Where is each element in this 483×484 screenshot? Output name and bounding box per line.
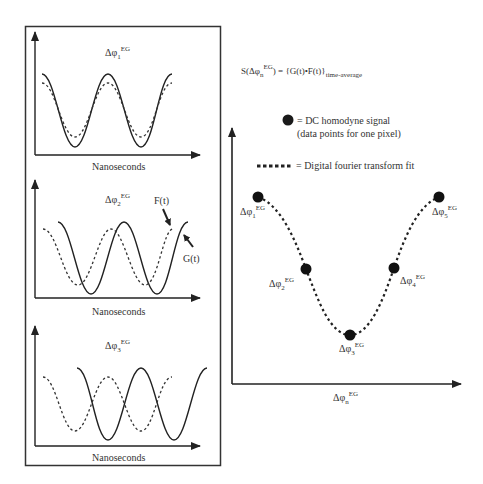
panel-3-dashed-curve (43, 377, 172, 431)
legend-dot-icon (283, 115, 294, 126)
panel-1-title: Δφ1EG (105, 45, 130, 61)
f-of-t-label: F(t) (154, 195, 169, 207)
panel-2-title: Δφ2EG (105, 192, 130, 208)
panel-1-xlabel: Nanoseconds (92, 161, 145, 172)
legend-dot-label: = DC homodyne signal (297, 115, 390, 126)
legend-dot-sublabel: (data points for one pixel) (297, 128, 401, 140)
panel-3-solid-curve (77, 368, 207, 440)
data-point-2 (301, 264, 312, 275)
g-of-t-label: G(t) (183, 253, 200, 265)
panel-1: Δφ1EG Nanoseconds (35, 32, 200, 172)
panel-1-solid-curve (42, 74, 172, 147)
formula: S(ΔφnEG) = {G(t)•F(t)}time-average (241, 63, 362, 79)
data-point-1-label: Δφ1EG (240, 204, 265, 220)
right-xlabel: ΔφnEG (333, 390, 358, 406)
panel-1-dashed-curve (42, 83, 172, 137)
diagram-canvas: Δφ1EG Nanoseconds Δφ2EG F(t) G(t) Nanose… (0, 0, 483, 484)
panel-2: Δφ2EG F(t) G(t) Nanoseconds (35, 180, 200, 317)
panel-3-xlabel: Nanoseconds (92, 452, 145, 463)
data-point-4-label: Δφ4EG (400, 273, 425, 289)
data-point-4 (389, 263, 400, 274)
g-of-t-arrow (184, 235, 193, 247)
f-of-t-arrow (163, 209, 170, 225)
fourier-fit-curve (258, 197, 439, 335)
data-point-3 (345, 330, 356, 341)
data-point-2-label: Δφ2EG (269, 276, 294, 292)
data-point-3-label: Δφ3EG (339, 341, 364, 357)
data-point-5 (434, 192, 445, 203)
data-point-1 (253, 192, 264, 203)
legend-dash-label: = Digital fourier transform fit (296, 160, 415, 171)
panel-2-xlabel: Nanoseconds (92, 306, 145, 317)
data-point-5-label: Δφ5EG (432, 204, 457, 220)
panel-3: Δφ3EG Nanoseconds (35, 326, 207, 463)
legend: = DC homodyne signal (data points for on… (257, 115, 415, 172)
panel-3-title: Δφ3EG (105, 338, 130, 354)
